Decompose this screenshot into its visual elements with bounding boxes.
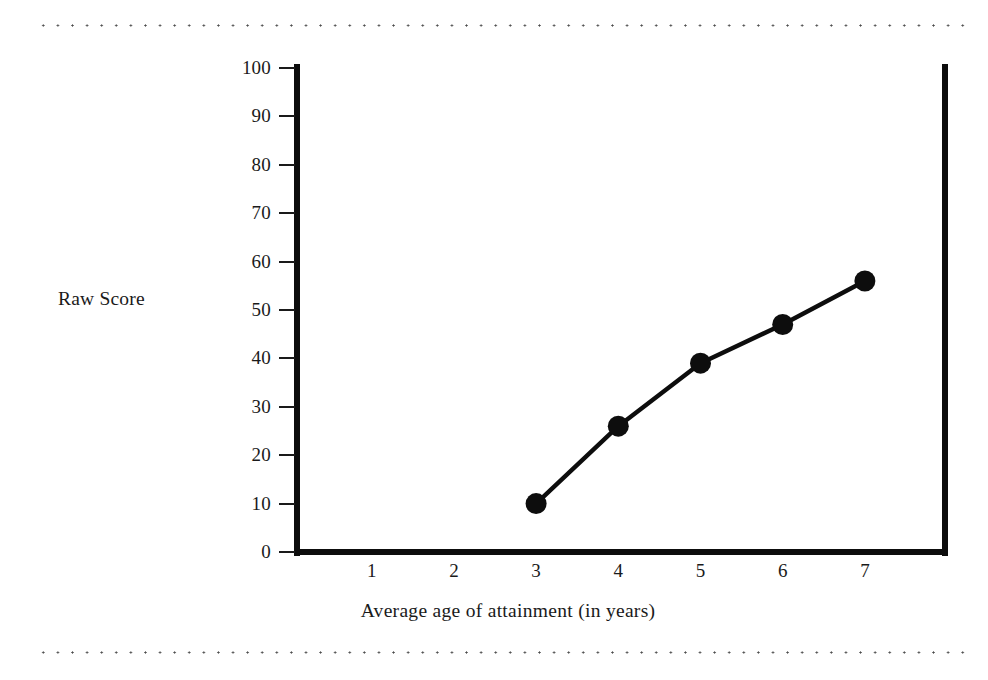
figure-page: Raw Score 0102030405060708090100 1234567…	[0, 0, 988, 680]
data-point-marker	[690, 353, 711, 374]
series-line	[536, 281, 865, 504]
x-axis-label: Average age of attainment (in years)	[0, 600, 988, 622]
data-point-marker	[854, 271, 875, 292]
data-point-marker	[608, 416, 629, 437]
data-series-group	[0, 0, 988, 680]
x-axis-label-text: Average age of attainment (in years)	[361, 600, 656, 621]
data-point-marker	[772, 314, 793, 335]
data-point-marker	[526, 493, 547, 514]
series-markers	[526, 271, 876, 515]
line-chart: Raw Score 0102030405060708090100 1234567…	[0, 0, 988, 680]
